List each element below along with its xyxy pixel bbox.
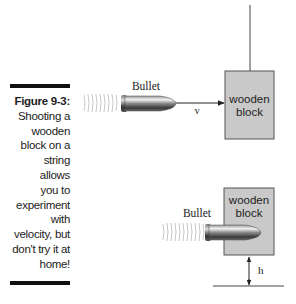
block-label-bottom-1: wooden bbox=[228, 194, 269, 206]
bullet-embedded bbox=[205, 224, 261, 241]
block-label-bottom-2: block bbox=[236, 207, 263, 219]
bullet-top bbox=[121, 95, 176, 112]
block-label-top-2: block bbox=[236, 106, 263, 118]
bullet-label-bottom: Bullet bbox=[183, 207, 212, 219]
velocity-label: v bbox=[194, 105, 200, 116]
height-label: h bbox=[258, 264, 264, 276]
speed-lines-bottom bbox=[163, 223, 204, 241]
bullet-label-top: Bullet bbox=[132, 80, 161, 92]
wooden-block-top bbox=[225, 71, 274, 139]
bullet-block-diagram: wooden block Bullet v wooden block bbox=[0, 0, 296, 304]
speed-lines-top bbox=[84, 94, 117, 112]
block-label-top-1: wooden bbox=[228, 93, 269, 105]
